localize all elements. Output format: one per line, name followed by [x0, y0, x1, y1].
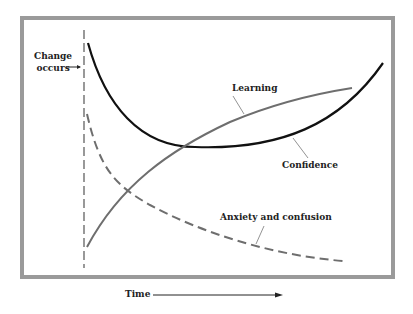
series-anxiety [87, 114, 343, 261]
chart-plot [0, 0, 413, 314]
anxiety-label: Anxiety and confusion [220, 212, 332, 222]
learning-leader [233, 96, 244, 114]
time-arrow-head [275, 293, 283, 298]
series-confidence [88, 43, 383, 147]
learning-label: Learning [232, 83, 277, 93]
confidence-leader [293, 138, 308, 158]
change-arrow-head [77, 65, 81, 69]
confidence-label: Confidence [282, 160, 338, 170]
anxiety-leader [256, 226, 264, 244]
change-occurs-label: Change occurs [34, 50, 72, 74]
x-axis-label: Time [125, 289, 150, 299]
change-label-line2: occurs [34, 62, 72, 74]
change-label-line1: Change [34, 50, 72, 62]
